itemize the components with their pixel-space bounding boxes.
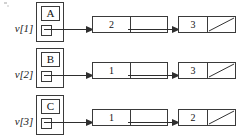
arrow-node-to-node [128, 20, 180, 29]
list-node: 3 [178, 16, 236, 33]
arrow-node-to-node [128, 113, 180, 122]
head-letter: B [41, 52, 60, 67]
node-value: 2 [93, 17, 131, 32]
node-null-pointer [208, 110, 235, 125]
vertex-label: v[1] [2, 22, 33, 34]
vertex-label: v[3] [2, 115, 33, 127]
node-null-pointer [208, 63, 235, 78]
adjacency-row: v[3] C 1 2 [0, 93, 236, 137]
vertex-label: v[2] [2, 68, 33, 80]
adjacency-row: v[2] B 1 3 [0, 46, 236, 90]
adjacency-row: v[1] A 2 3 [0, 0, 236, 44]
node-value: 3 [179, 17, 208, 32]
node-value: 1 [93, 63, 131, 78]
arrow-head-to-node [44, 113, 94, 122]
head-letter: A [41, 6, 60, 21]
node-null-pointer [208, 17, 235, 32]
node-value: 2 [179, 110, 208, 125]
arrow-node-to-node [128, 66, 180, 75]
head-letter: C [41, 99, 60, 114]
node-value: 1 [93, 110, 131, 125]
linked-list-diagram: v[1] A 2 3 [0, 0, 236, 137]
arrow-head-to-node [44, 66, 94, 75]
arrow-head-to-node [44, 20, 94, 29]
list-node: 3 [178, 62, 236, 79]
node-value: 3 [179, 63, 208, 78]
list-node: 2 [178, 109, 236, 126]
